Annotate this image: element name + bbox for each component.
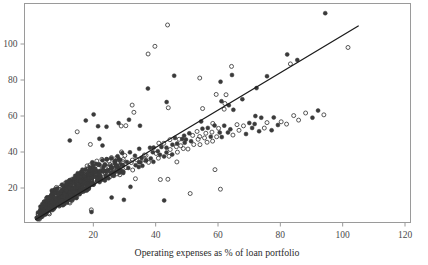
data-point bbox=[110, 196, 114, 200]
data-point bbox=[220, 135, 224, 139]
data-point bbox=[168, 148, 172, 152]
y-axis-ticks: 20406080100 bbox=[3, 39, 24, 193]
data-point bbox=[182, 134, 186, 138]
data-point bbox=[228, 127, 232, 131]
data-point bbox=[214, 92, 218, 96]
data-point bbox=[186, 147, 190, 151]
data-point bbox=[140, 164, 144, 168]
data-point bbox=[240, 97, 244, 101]
y-tick-label: 40 bbox=[8, 147, 18, 157]
data-point bbox=[217, 126, 221, 130]
data-point bbox=[137, 147, 141, 151]
data-point bbox=[205, 140, 209, 144]
data-point bbox=[128, 150, 132, 154]
data-point bbox=[121, 171, 125, 175]
data-point bbox=[166, 23, 170, 27]
data-point bbox=[279, 120, 283, 124]
data-point bbox=[192, 143, 196, 147]
data-point bbox=[158, 153, 162, 157]
data-point bbox=[175, 150, 179, 154]
x-tick-label: 100 bbox=[336, 230, 351, 240]
data-point bbox=[117, 121, 121, 125]
scatter-points-group bbox=[35, 109, 326, 222]
data-point bbox=[123, 154, 127, 158]
data-point bbox=[151, 160, 155, 164]
data-point bbox=[130, 103, 134, 107]
data-point bbox=[211, 139, 215, 143]
data-point bbox=[153, 44, 157, 48]
data-point bbox=[166, 106, 170, 110]
y-tick-label: 60 bbox=[8, 111, 18, 121]
data-point bbox=[310, 116, 314, 120]
regression-line-group bbox=[36, 26, 359, 220]
data-point bbox=[304, 111, 308, 115]
x-tick-label: 80 bbox=[276, 230, 286, 240]
data-point bbox=[346, 45, 350, 49]
x-axis-title: Operating expenses as % of loan portfoli… bbox=[135, 247, 300, 258]
data-point bbox=[158, 178, 162, 182]
data-point bbox=[285, 52, 289, 56]
data-point bbox=[222, 124, 226, 128]
data-point bbox=[276, 123, 280, 127]
data-point bbox=[144, 158, 148, 162]
data-point bbox=[244, 132, 248, 136]
data-point bbox=[132, 110, 136, 114]
data-point bbox=[231, 108, 235, 112]
data-point bbox=[218, 187, 222, 191]
data-point bbox=[91, 163, 95, 167]
data-point bbox=[126, 166, 130, 170]
data-point bbox=[105, 157, 109, 161]
data-point bbox=[215, 135, 219, 139]
data-point bbox=[103, 162, 107, 166]
data-point bbox=[218, 131, 222, 135]
data-point bbox=[149, 156, 153, 160]
x-tick-label: 120 bbox=[398, 230, 413, 240]
data-point bbox=[165, 100, 169, 104]
data-point bbox=[133, 177, 137, 181]
y-tick-label: 20 bbox=[8, 183, 18, 193]
data-point bbox=[257, 129, 261, 133]
data-point bbox=[170, 152, 174, 156]
data-point bbox=[316, 109, 320, 113]
data-point bbox=[203, 136, 207, 140]
data-point bbox=[166, 177, 170, 181]
data-point bbox=[270, 128, 274, 132]
x-tick-label: 40 bbox=[151, 230, 161, 240]
data-point bbox=[146, 87, 150, 91]
data-point bbox=[195, 129, 199, 133]
data-point bbox=[68, 139, 72, 143]
data-point bbox=[237, 128, 241, 132]
x-tick-label: 60 bbox=[213, 230, 223, 240]
data-point bbox=[162, 198, 166, 202]
data-point bbox=[292, 114, 296, 118]
data-point bbox=[175, 160, 179, 164]
data-point bbox=[138, 124, 142, 128]
data-point bbox=[137, 165, 141, 169]
data-point bbox=[88, 142, 92, 146]
data-point bbox=[131, 168, 135, 172]
data-point bbox=[181, 147, 185, 151]
data-point bbox=[124, 124, 128, 128]
data-point bbox=[97, 137, 101, 141]
data-point bbox=[146, 52, 150, 56]
data-point bbox=[265, 74, 269, 78]
data-point bbox=[297, 118, 301, 122]
data-point bbox=[250, 126, 254, 130]
data-point bbox=[322, 113, 326, 117]
data-point bbox=[92, 112, 96, 116]
data-point bbox=[137, 160, 141, 164]
data-point bbox=[122, 198, 126, 202]
data-point bbox=[206, 126, 210, 130]
data-point bbox=[224, 93, 228, 97]
x-axis-ticks: 20406080100120 bbox=[89, 223, 413, 240]
data-point bbox=[105, 125, 109, 129]
data-point bbox=[191, 133, 195, 137]
y-tick-label: 80 bbox=[8, 75, 18, 85]
data-point bbox=[259, 116, 263, 120]
data-point bbox=[265, 121, 269, 125]
data-point bbox=[219, 80, 223, 84]
data-point bbox=[156, 149, 160, 153]
data-point bbox=[262, 126, 266, 130]
data-point bbox=[165, 150, 169, 154]
data-point bbox=[241, 124, 245, 128]
